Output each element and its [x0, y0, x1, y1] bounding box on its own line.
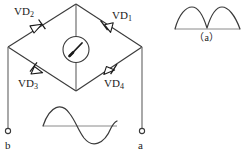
rectified-curve [175, 7, 240, 29]
terminal-node-b [5, 128, 10, 133]
input-sine-waveform [43, 107, 117, 144]
input-sine-curve [43, 107, 117, 144]
diode-label-vd4: VD4 [104, 78, 124, 89]
terminal-node-a [139, 128, 144, 133]
rectified-waveform [175, 7, 240, 29]
bridge-rectifier-figure: VD2 VD1 VD3 VD4 b a （a） [0, 0, 248, 158]
terminal-label-a: a [138, 140, 143, 151]
diode-vd2 [30, 20, 45, 34]
galvanometer [63, 37, 89, 63]
diode-vd1 [101, 21, 114, 33]
diode-label-vd2: VD2 [14, 6, 34, 17]
terminal-label-b: b [5, 140, 11, 151]
diode-label-vd3: VD3 [18, 78, 38, 89]
subfigure-caption-a: （a） [194, 33, 220, 43]
diode-vd4 [104, 64, 117, 74]
diode-label-vd1: VD1 [112, 10, 132, 21]
